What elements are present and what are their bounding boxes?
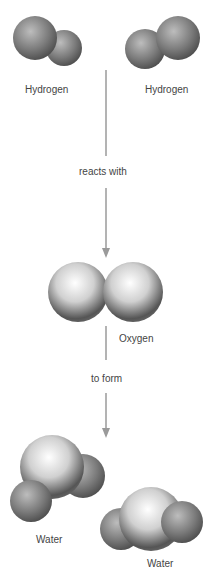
water-molecule-left: [10, 435, 105, 522]
water-molecule-right: [100, 487, 203, 551]
label-to-form: to form: [91, 373, 122, 384]
label-oxygen: Oxygen: [119, 333, 153, 344]
label-hydrogen-right: Hydrogen: [145, 84, 188, 95]
label-hydrogen-left: Hydrogen: [25, 84, 68, 95]
label-water-right: Water: [147, 558, 173, 569]
hydrogen-molecule-left: [13, 16, 82, 66]
oxygen-molecule: [48, 262, 163, 322]
arrow-reacts: [102, 70, 110, 258]
label-reacts-with: reacts with: [79, 166, 127, 177]
label-water-left: Water: [36, 534, 62, 545]
hydrogen-molecule-right: [125, 16, 200, 69]
